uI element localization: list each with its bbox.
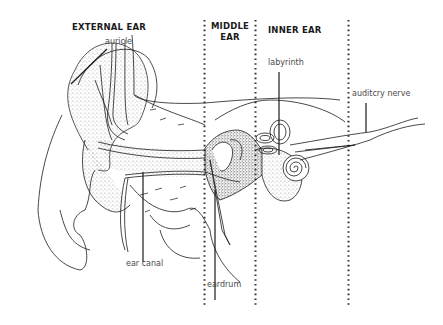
label-auditory-nerve: auditcry nerve	[352, 89, 410, 98]
ear-anatomy-diagram: EXTERNAL EAR MIDDLE EAR INNER EAR auricl…	[0, 0, 443, 325]
section-title-external-ear: EXTERNAL EAR	[72, 22, 146, 33]
label-labyrinth: labyrinth	[268, 58, 304, 67]
middle-ear-shape	[205, 130, 262, 245]
label-eardrum: eardrum	[207, 280, 241, 289]
label-ear-canal: ear canal	[126, 259, 163, 268]
section-title-middle-line2: EAR	[208, 32, 252, 43]
labyrinth-shape	[255, 120, 309, 201]
section-title-middle-line1: MIDDLE	[208, 21, 252, 32]
section-title-inner-ear: INNER EAR	[268, 25, 321, 36]
ear-illustration	[0, 0, 443, 325]
section-title-middle-ear: MIDDLE EAR	[208, 21, 252, 43]
label-auricle: auricle	[105, 37, 132, 46]
